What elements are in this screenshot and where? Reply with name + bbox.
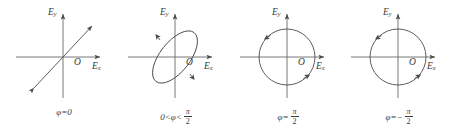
panel-2-graphic (120, 0, 232, 105)
x-axis-label: Ex (204, 62, 213, 72)
panel-2-caption: 0<φ< π 2 (120, 108, 232, 126)
ellipse-direction-arrow-upper (157, 36, 161, 41)
origin-label: O (298, 58, 305, 68)
panel-circular-negative: Ey Ex O φ=− π 2 (343, 0, 454, 139)
polarization-figure: Ey Ex O φ=0 (0, 0, 454, 139)
panel-1-caption: φ=0 (8, 108, 120, 117)
panel-3-caption-text: φ= (277, 113, 288, 122)
panel-2-caption-text: 0<φ< (160, 113, 182, 122)
panel-3-graphic (232, 0, 344, 105)
y-axis-label: Ey (383, 8, 392, 18)
y-axis-label: Ey (48, 8, 57, 18)
panel-1-graphic (8, 0, 120, 105)
panel-4-caption: φ=− π 2 (343, 108, 454, 126)
panel-4-graphic (343, 0, 454, 105)
x-axis-label: Ex (92, 62, 101, 72)
panel-1-caption-text: φ=0 (56, 108, 72, 117)
x-axis-label: Ex (427, 62, 436, 72)
origin-label: O (409, 58, 416, 68)
panel-3-caption: φ= π 2 (232, 108, 344, 126)
x-axis-label: Ex (316, 62, 325, 72)
origin-label: O (186, 58, 193, 68)
origin-label: O (74, 58, 81, 68)
panel-2-caption-fraction: π 2 (184, 108, 192, 126)
panel-elliptical: Ey Ex O 0<φ< π 2 (120, 0, 232, 139)
panel-circular-positive: Ey Ex O φ= π 2 (232, 0, 344, 139)
panel-3-caption-fraction: π 2 (291, 108, 299, 126)
panel-4-caption-fraction: π 2 (405, 108, 413, 126)
panel-linear-0: Ey Ex O φ=0 (8, 0, 120, 139)
ellipse-direction-arrow-lower (190, 74, 194, 79)
y-axis-label: Ey (272, 8, 281, 18)
panel-4-caption-text: φ=− (385, 113, 402, 122)
y-axis-label: Ey (160, 8, 169, 18)
